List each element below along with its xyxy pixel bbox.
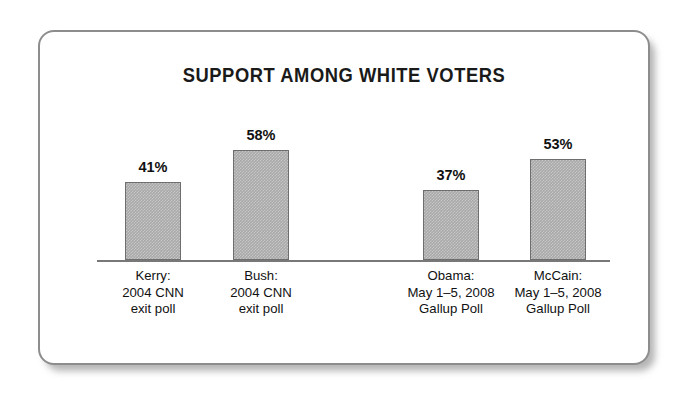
category-line: Kerry: [91,268,215,285]
category-line: McCain: [496,268,620,285]
category-label-bush: Bush: 2004 CNN exit poll [199,268,323,318]
bar-kerry[interactable] [125,182,181,260]
chart-card: SUPPORT AMONG WHITE VOTERS 41% 58% 37% 5… [38,30,650,365]
category-line: 2004 CNN [199,285,323,302]
category-line: Gallup Poll [389,301,513,318]
category-line: Bush: [199,268,323,285]
category-line: Obama: [389,268,513,285]
category-line: May 1–5, 2008 [389,285,513,302]
category-line: exit poll [91,301,215,318]
category-line: 2004 CNN [91,285,215,302]
plot-area: 41% 58% 37% 53% Kerry: 2004 CNN exit pol… [40,32,648,363]
category-line: Gallup Poll [496,301,620,318]
category-line: exit poll [199,301,323,318]
bar-obama[interactable] [423,190,479,260]
axis-baseline [97,260,610,262]
bar-value-obama: 37% [409,167,493,183]
bar-value-kerry: 41% [111,159,195,175]
bar-value-mccain: 53% [516,136,600,152]
bar-value-bush: 58% [219,127,303,143]
bar-mccain[interactable] [530,159,586,260]
category-label-obama: Obama: May 1–5, 2008 Gallup Poll [389,268,513,318]
category-line: May 1–5, 2008 [496,285,620,302]
category-label-kerry: Kerry: 2004 CNN exit poll [91,268,215,318]
bar-bush[interactable] [233,150,289,260]
category-label-mccain: McCain: May 1–5, 2008 Gallup Poll [496,268,620,318]
